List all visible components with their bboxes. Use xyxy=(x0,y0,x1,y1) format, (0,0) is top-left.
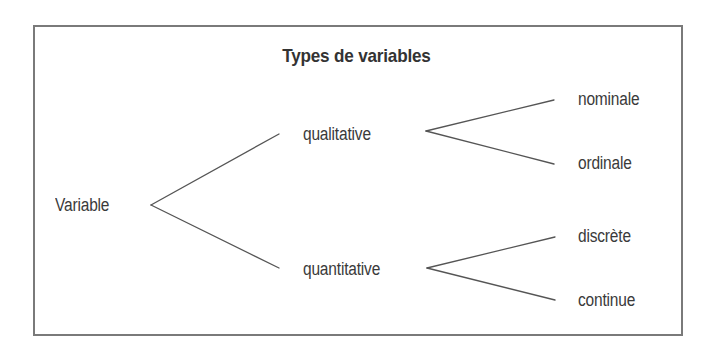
node-quantitative: quantitative xyxy=(303,258,380,280)
node-variable: Variable xyxy=(55,194,109,216)
connector-qualitative xyxy=(426,100,554,164)
node-continue: continue xyxy=(578,289,635,311)
node-nominale: nominale xyxy=(578,88,639,110)
connector-quantitative xyxy=(427,237,555,300)
node-ordinale: ordinale xyxy=(578,152,632,174)
node-qualitative: qualitative xyxy=(303,123,371,145)
node-discrete: discrète xyxy=(578,225,631,247)
connector-variable xyxy=(151,134,279,268)
diagram-title: Types de variables xyxy=(36,45,677,67)
